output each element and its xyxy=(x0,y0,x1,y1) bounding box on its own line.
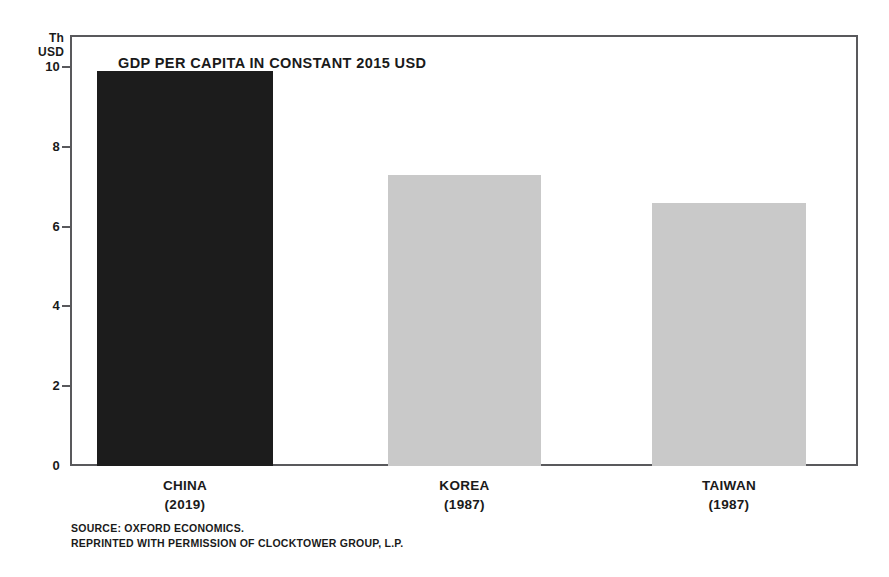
category-year: (2019) xyxy=(57,495,313,514)
y-axis-unit-line2: USD xyxy=(16,45,64,59)
y-axis-tick-label: 0 xyxy=(14,458,60,473)
source-line-1: SOURCE: OXFORD ECONOMICS. xyxy=(71,521,403,536)
chart-title: GDP PER CAPITA IN CONSTANT 2015 USD xyxy=(118,55,426,71)
category-label-taiwan: TAIWAN(1987) xyxy=(612,476,846,514)
category-name: CHINA xyxy=(57,476,313,495)
y-axis-tick-label: 6 xyxy=(14,219,60,234)
category-name: TAIWAN xyxy=(612,476,846,495)
category-name: KOREA xyxy=(348,476,581,495)
category-year: (1987) xyxy=(612,495,846,514)
y-axis-tick-mark xyxy=(62,305,70,307)
y-axis-tick-mark xyxy=(62,226,70,228)
y-axis-tick-label: 8 xyxy=(14,139,60,154)
y-axis-tick-label: 10 xyxy=(14,59,60,74)
category-year: (1987) xyxy=(348,495,581,514)
category-label-korea: KOREA(1987) xyxy=(348,476,581,514)
y-axis-tick-mark xyxy=(62,66,70,68)
category-label-china: CHINA(2019) xyxy=(57,476,313,514)
source-note: SOURCE: OXFORD ECONOMICS. REPRINTED WITH… xyxy=(71,521,403,550)
y-axis-unit-line1: Th xyxy=(16,31,64,45)
y-axis-tick-mark xyxy=(62,146,70,148)
y-axis-tick-label: 2 xyxy=(14,378,60,393)
source-line-2: REPRINTED WITH PERMISSION OF CLOCKTOWER … xyxy=(71,536,403,551)
chart-screenshot: Th USD GDP PER CAPITA IN CONSTANT 2015 U… xyxy=(0,0,889,577)
plot-area-frame xyxy=(70,35,858,466)
y-axis-unit-label: Th USD xyxy=(16,31,64,59)
y-axis-tick-label: 4 xyxy=(14,298,60,313)
y-axis-tick-mark xyxy=(62,385,70,387)
